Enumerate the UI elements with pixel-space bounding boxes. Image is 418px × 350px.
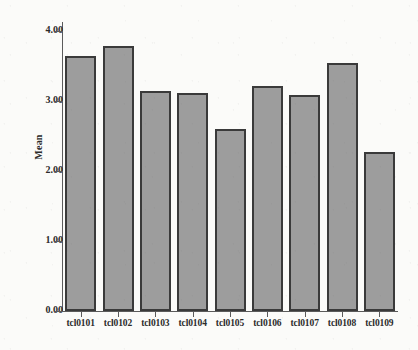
bar[interactable] [177,93,208,311]
x-tick-mark [267,311,268,317]
y-tick: 1.00 [0,241,63,242]
y-tick-mark [55,311,63,312]
bar[interactable] [252,86,283,311]
plot-area [62,22,398,311]
bar[interactable] [103,46,134,311]
x-tick-mark [379,311,380,317]
y-tick: 2.00 [0,171,63,172]
x-tick-mark [118,311,119,317]
x-tick-label: tcl0103 [137,318,174,328]
bar[interactable] [65,56,96,311]
x-tick-mark [81,311,82,317]
bar[interactable] [140,91,171,311]
y-tick-label: 4.00 [19,24,63,35]
x-tick-label: tcl0105 [211,318,248,328]
bar[interactable] [364,152,395,311]
x-tick-label: tcl0102 [99,318,136,328]
x-tick-mark [342,311,343,317]
x-tick-label: tcl0106 [249,318,286,328]
y-tick-label: 3.00 [19,94,63,105]
y-tick-label: 2.00 [19,164,63,175]
bar-chart-figure: Mean 0.001.002.003.004.00 tcl0101tcl0102… [0,0,418,350]
y-tick: 4.00 [0,31,63,32]
bar[interactable] [327,63,358,311]
x-tick-label: tcl0107 [286,318,323,328]
x-tick-label: tcl0104 [174,318,211,328]
y-tick-label: 1.00 [19,234,63,245]
bar[interactable] [215,129,246,311]
y-tick-label: 0.00 [19,304,63,315]
x-tick-label: tcl0108 [323,318,360,328]
y-tick: 0.00 [0,311,63,312]
x-tick-label: tcl0109 [361,318,398,328]
bar[interactable] [289,95,320,311]
x-tick-mark [230,311,231,317]
x-tick-label: tcl0101 [62,318,99,328]
y-tick: 3.00 [0,101,63,102]
x-tick-mark [193,311,194,317]
x-tick-mark [305,311,306,317]
x-tick-mark [155,311,156,317]
